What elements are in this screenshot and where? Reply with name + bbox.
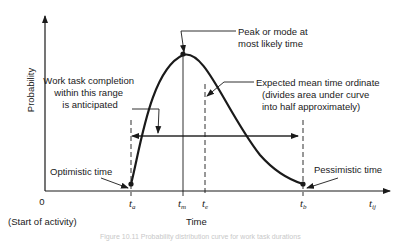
pessimistic-leader bbox=[307, 178, 338, 188]
optimistic-annotation: Optimistic time bbox=[50, 166, 112, 177]
tick-label-ta: ta bbox=[129, 197, 136, 211]
figure-caption: Figure 10.11 Probability distribution cu… bbox=[100, 233, 301, 241]
origin-label: 0 bbox=[39, 196, 44, 207]
mean-annotation: Expected mean time ordinate (divides are… bbox=[256, 77, 382, 112]
tick-label-te: te bbox=[202, 197, 208, 211]
tick-label-tb: tb bbox=[300, 197, 307, 211]
tick-label-tij: tij bbox=[369, 197, 376, 211]
peak-annotation: Peak or mode at most likely time bbox=[238, 26, 310, 49]
tick-label-tm: tm bbox=[178, 197, 186, 211]
x-axis-label: Time bbox=[186, 216, 207, 227]
optimistic-leader bbox=[101, 178, 128, 188]
pessimistic-annotation: Pessimistic time bbox=[314, 164, 382, 175]
peak-leader bbox=[181, 31, 236, 52]
range-annotation: Work task completion within this range i… bbox=[43, 75, 136, 110]
mean-leader bbox=[207, 82, 254, 96]
origin-note: (Start of activity) bbox=[8, 216, 77, 227]
y-axis-label: Probability bbox=[25, 68, 36, 113]
distribution-curve bbox=[131, 54, 303, 184]
probability-distribution-diagram: Probability Peak or mode at most likely … bbox=[0, 0, 398, 242]
